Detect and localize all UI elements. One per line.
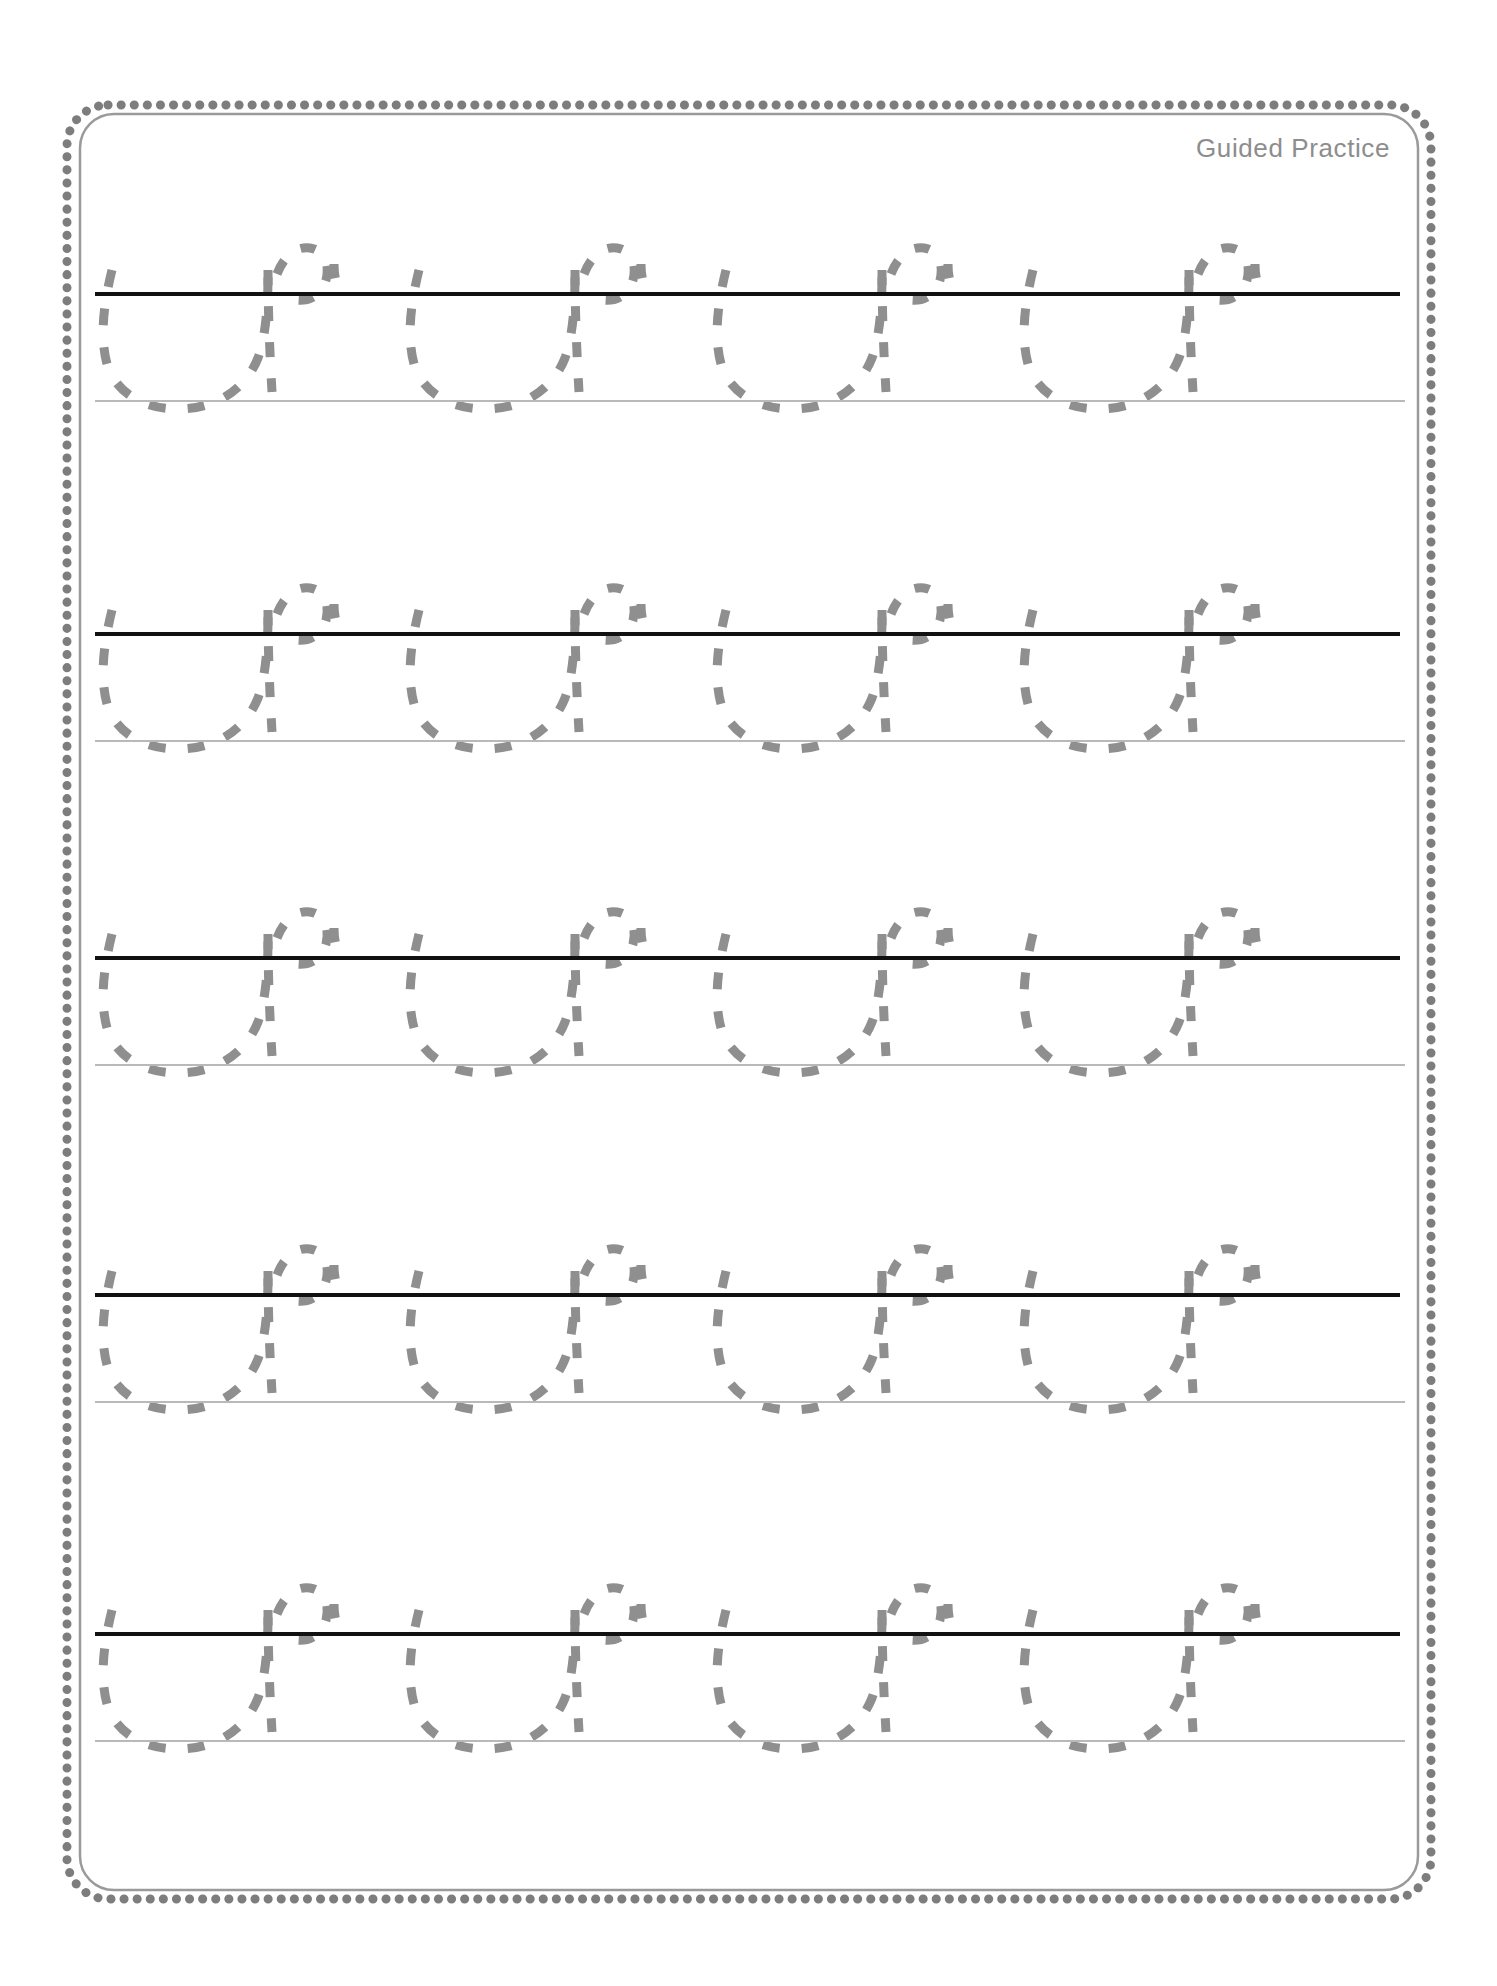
row-baseline bbox=[95, 400, 1405, 402]
practice-row bbox=[0, 526, 1497, 766]
tracing-letter bbox=[103, 1249, 343, 1410]
row-midline bbox=[95, 1632, 1400, 1636]
tracing-letter bbox=[410, 588, 650, 749]
row-baseline bbox=[95, 1401, 1405, 1403]
tracing-letter bbox=[410, 1588, 650, 1749]
tracing-letter bbox=[717, 1588, 957, 1749]
tracing-letter bbox=[717, 912, 957, 1073]
page-title: Guided Practice bbox=[0, 133, 1390, 164]
tracing-letter bbox=[103, 588, 343, 749]
tracing-letter bbox=[1024, 248, 1264, 409]
tracing-letter bbox=[717, 588, 957, 749]
row-midline bbox=[95, 1293, 1400, 1297]
tracing-letter bbox=[1024, 588, 1264, 749]
tracing-letter bbox=[103, 1588, 343, 1749]
tracing-glyph-layer bbox=[0, 850, 1497, 1090]
tracing-letter bbox=[717, 1249, 957, 1410]
practice-row bbox=[0, 850, 1497, 1090]
tracing-letter bbox=[103, 912, 343, 1073]
row-midline bbox=[95, 632, 1400, 636]
worksheet-page: Guided Practice bbox=[0, 0, 1497, 1986]
tracing-letter bbox=[410, 1249, 650, 1410]
row-baseline bbox=[95, 1740, 1405, 1742]
practice-row bbox=[0, 1526, 1497, 1766]
tracing-letter bbox=[410, 912, 650, 1073]
row-baseline bbox=[95, 740, 1405, 742]
tracing-letter bbox=[1024, 912, 1264, 1073]
tracing-letter bbox=[717, 248, 957, 409]
practice-row bbox=[0, 186, 1497, 426]
tracing-glyph-layer bbox=[0, 1187, 1497, 1427]
tracing-letter bbox=[1024, 1588, 1264, 1749]
tracing-letter bbox=[410, 248, 650, 409]
tracing-letter bbox=[103, 248, 343, 409]
practice-row bbox=[0, 1187, 1497, 1427]
tracing-glyph-layer bbox=[0, 1526, 1497, 1766]
tracing-letter bbox=[1024, 1249, 1264, 1410]
row-midline bbox=[95, 292, 1400, 296]
tracing-glyph-layer bbox=[0, 186, 1497, 426]
row-midline bbox=[95, 956, 1400, 960]
tracing-glyph-layer bbox=[0, 526, 1497, 766]
row-baseline bbox=[95, 1064, 1405, 1066]
